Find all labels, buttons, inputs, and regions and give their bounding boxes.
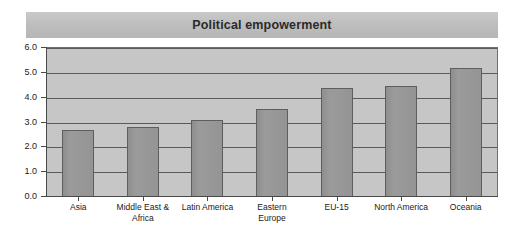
- plot-area: [46, 47, 498, 196]
- y-axis-tick-mark: [41, 47, 46, 48]
- x-axis-tick-mark: [143, 197, 144, 201]
- bar: [256, 109, 288, 197]
- y-axis-tick-mark: [41, 97, 46, 98]
- y-axis-tick-mark: [41, 171, 46, 172]
- bar: [127, 127, 159, 197]
- y-axis-tick-label: 2.0: [9, 141, 37, 151]
- bar: [450, 68, 482, 197]
- x-axis-tick-mark: [272, 197, 273, 201]
- y-axis-tick-mark: [41, 122, 46, 123]
- bar: [385, 86, 417, 197]
- y-axis-tick-label: 5.0: [9, 67, 37, 77]
- x-axis-tick-mark: [337, 197, 338, 201]
- y-axis-tick-label: 4.0: [9, 92, 37, 102]
- page-title: Political empowerment: [192, 18, 331, 32]
- y-axis-line: [46, 47, 47, 197]
- y-axis-tick-label: 3.0: [9, 117, 37, 127]
- y-axis-tick-mark: [41, 146, 46, 147]
- gridline: [46, 73, 497, 74]
- bar: [191, 120, 223, 197]
- y-axis-tick-label: 1.0: [9, 166, 37, 176]
- gridline: [46, 48, 497, 49]
- y-axis-tick-mark: [41, 196, 46, 197]
- x-axis-tick-mark: [466, 197, 467, 201]
- x-axis-tick-mark: [401, 197, 402, 201]
- y-axis-tick-label: 6.0: [9, 42, 37, 52]
- gridline: [46, 98, 497, 99]
- bar: [321, 88, 353, 197]
- y-axis-tick-mark: [41, 72, 46, 73]
- chart-title-band: Political empowerment: [26, 12, 498, 38]
- x-axis-tick-mark: [78, 197, 79, 201]
- bar: [62, 130, 94, 197]
- x-axis-tick-label: Oceania: [427, 202, 504, 213]
- y-axis-tick-label: 0.0: [9, 191, 37, 201]
- x-axis-tick-mark: [207, 197, 208, 201]
- bar-chart-figure: Political empowerment 0.01.02.03.04.05.0…: [0, 0, 511, 243]
